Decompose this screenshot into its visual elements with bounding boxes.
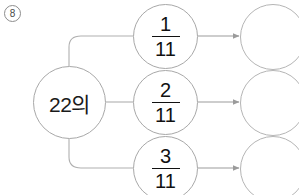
fraction-2-denominator: 11 — [155, 104, 176, 125]
source-node: 22의 — [33, 66, 106, 139]
fraction-2-numerator: 2 — [160, 80, 171, 101]
fraction-node-3: 3 11 — [133, 136, 198, 195]
fraction-1-numerator: 1 — [160, 14, 171, 35]
fraction-node-1: 1 11 — [133, 4, 198, 69]
problem-number-badge: 8 — [4, 5, 21, 22]
fraction-3-denominator: 11 — [155, 170, 176, 191]
answer-node-3[interactable] — [240, 136, 299, 195]
fraction-3-numerator: 3 — [160, 146, 171, 167]
fraction-1: 1 11 — [152, 14, 180, 59]
connector-branch-top — [69, 36, 133, 66]
fraction-1-bar — [152, 36, 180, 37]
fraction-node-2: 2 11 — [133, 70, 198, 135]
fraction-2: 2 11 — [152, 80, 180, 125]
problem-number-label: 8 — [10, 8, 16, 19]
connector-branch-bottom — [69, 139, 133, 168]
answer-node-1[interactable] — [240, 4, 299, 70]
answer-node-2[interactable] — [240, 70, 299, 136]
fraction-3: 3 11 — [152, 146, 180, 191]
fraction-1-denominator: 11 — [155, 38, 176, 59]
source-node-label: 22의 — [49, 88, 90, 118]
fraction-2-bar — [152, 102, 180, 103]
fraction-3-bar — [152, 168, 180, 169]
